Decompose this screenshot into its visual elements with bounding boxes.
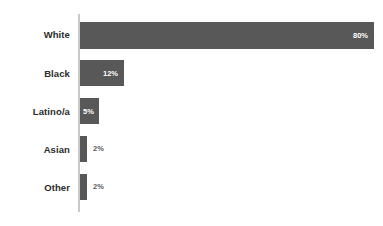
value-label-latino: 5%	[83, 107, 94, 116]
bar-row: White 80%	[0, 14, 383, 54]
value-label-white: 80%	[353, 31, 368, 40]
category-label-latino: Latino/a	[0, 106, 70, 117]
bar-row: Black 12%	[0, 54, 383, 92]
bar-asian	[80, 136, 87, 162]
bar-black: 12%	[80, 60, 124, 86]
category-label-asian: Asian	[0, 144, 70, 155]
bar-latino: 5%	[80, 98, 99, 124]
bar-row: Other 2%	[0, 168, 383, 206]
value-label-asian: 2%	[93, 144, 104, 153]
bar-row: Asian 2%	[0, 130, 383, 168]
bar-row: Latino/a 5%	[0, 92, 383, 130]
bar-chart: White 80% Black 12% Latino/a 5% Asian 2%	[0, 0, 383, 226]
value-label-other: 2%	[93, 182, 104, 191]
plot-area: White 80% Black 12% Latino/a 5% Asian 2%	[0, 14, 383, 212]
category-label-other: Other	[0, 182, 70, 193]
category-label-black: Black	[0, 68, 70, 79]
bar-other	[80, 174, 87, 200]
value-label-black: 12%	[103, 69, 118, 78]
category-label-white: White	[0, 29, 70, 40]
bar-white: 80%	[80, 22, 374, 49]
